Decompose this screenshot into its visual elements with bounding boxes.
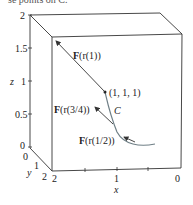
arrow-f-r34 (95, 107, 113, 124)
arrow-f-r1 (56, 41, 105, 92)
x-tick-2: 2 (52, 173, 57, 184)
z-axis-label: z (9, 76, 14, 87)
z-tick-2: 2 (20, 10, 25, 21)
z-tick-0-5: 0.5 (15, 109, 28, 120)
x-tick-0: 0 (175, 173, 180, 184)
z-tick-1: 1 (21, 76, 26, 87)
label-f-r1: F(r(1)) (73, 50, 101, 62)
label-f-r34: F(r(3/4)) (54, 104, 90, 116)
vector-field-diagram: 2 1.5 1 0.5 0 z 0 1 2 y 2 1 0 x (1, 1, 1… (0, 0, 193, 205)
label-f-r12: F(r(1/2)) (79, 135, 115, 147)
x-tick-1: 1 (114, 173, 119, 184)
z-tick-0: 0 (20, 140, 25, 151)
y-tick-2: 2 (42, 171, 47, 182)
y-tick-0: 0 (23, 151, 28, 162)
z-tick-1-5: 1.5 (15, 43, 28, 54)
point-label: (1, 1, 1) (109, 87, 141, 99)
curve-label: C (114, 105, 121, 116)
y-tick-1: 1 (34, 160, 39, 171)
x-axis-label: x (113, 184, 119, 195)
y-axis-label: y (26, 167, 32, 178)
